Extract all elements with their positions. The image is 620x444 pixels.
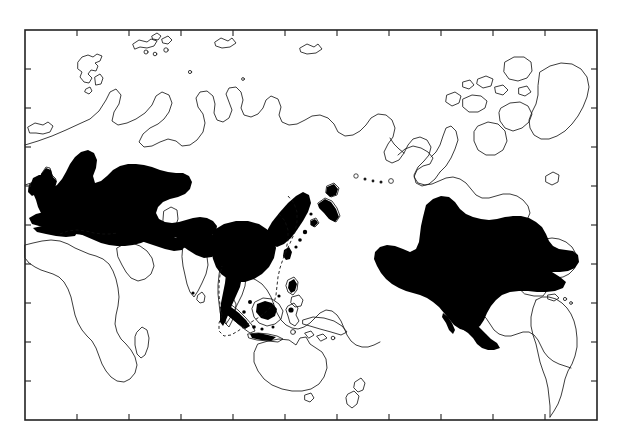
range-islet-sulawesi	[288, 307, 293, 312]
range-ryukyu-b	[298, 238, 302, 242]
coastline-aleutian-c	[372, 180, 375, 183]
range-coastal-islet-a	[309, 212, 312, 215]
distribution-map-figure	[0, 0, 620, 444]
range-coastal-islet-b	[315, 221, 318, 224]
range-islet-so-h	[272, 326, 275, 329]
range-ryukyu-c	[294, 245, 297, 248]
range-islet-so-c	[234, 318, 237, 321]
range-islet-so-g	[277, 294, 280, 297]
range-ryukyu-a	[303, 230, 307, 234]
range-islet-so-d	[252, 325, 256, 329]
world-distribution-map	[0, 0, 620, 444]
coastline-aleutian-d	[380, 181, 383, 184]
range-islet-so-e	[260, 327, 263, 330]
range-islet-so-b	[242, 310, 246, 314]
range-india-dot	[191, 291, 194, 294]
coastline-aleutian-b	[364, 178, 367, 181]
range-islet-so-f	[230, 296, 233, 299]
range-islet-so-a	[248, 300, 252, 304]
